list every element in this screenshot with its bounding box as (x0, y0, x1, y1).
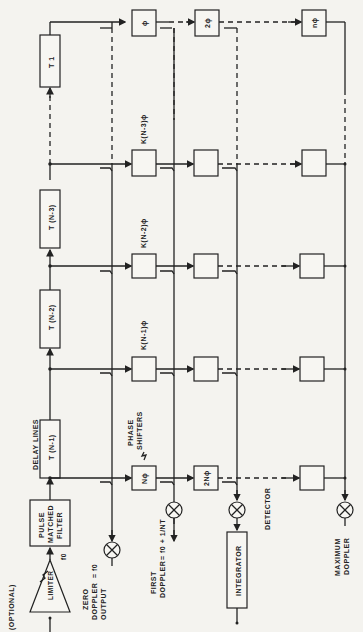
phase-shifters-label: PHASE SHIFTERS (127, 411, 146, 460)
first-doppler-output-label: FIRST DOPPLER = f0 + 1/NT (150, 519, 166, 598)
delay-line-t-n-3: T (N-3) (40, 190, 60, 248)
svg-text:DOPPLER: DOPPLER (343, 538, 350, 575)
phase-label-k-n-2: K(N-2)ϕ (140, 218, 148, 248)
svg-text:PULSE: PULSE (38, 512, 45, 538)
tap-row-1: K(N-1)ϕ (50, 320, 345, 381)
delay-lines-label: DELAY LINES (32, 419, 39, 470)
zero-doppler-output-label: ZERO DOPPLER OUTPUT = f0 (82, 564, 107, 620)
limiter-freq-label: f0 (60, 553, 67, 560)
phase-box-max (300, 466, 324, 490)
detector-label: DETECTOR (264, 488, 271, 530)
svg-text:nϕ: nϕ (311, 17, 319, 28)
svg-text:= f0 + 1/NT: = f0 + 1/NT (159, 519, 166, 560)
tap-row-2: K(N-2)ϕ (50, 218, 345, 278)
svg-text:MATCHED: MATCHED (47, 505, 54, 543)
svg-text:2Nϕ: 2Nϕ (203, 470, 211, 486)
doppler-filter-bank-diagram: LIMITER f0 (OPTIONAL) PULSE MATCHED FILT… (0, 0, 363, 632)
svg-text:DOPPLER: DOPPLER (91, 583, 98, 620)
tap-row-3: K(N-3)ϕ (50, 114, 345, 176)
svg-text:T (N-2): T (N-2) (48, 304, 56, 330)
detector-first-doppler-icon (166, 502, 182, 524)
svg-text:DOPPLER: DOPPLER (159, 561, 166, 598)
delay-line-trunk (50, 22, 125, 500)
svg-text:= f0: = f0 (91, 564, 98, 578)
svg-text:SHIFTERS: SHIFTERS (136, 411, 143, 450)
svg-text:T (N-3): T (N-3) (48, 204, 56, 230)
detector-zero-doppler-icon (104, 542, 120, 566)
detector-icon (229, 502, 245, 530)
pulse-matched-filter: PULSE MATCHED FILTER (30, 500, 70, 546)
integrator: INTEGRATOR (227, 532, 247, 625)
limiter-label: LIMITER (47, 571, 54, 601)
delay-line-t-n-1: T (N-1) (40, 420, 60, 478)
svg-text:INTEGRATOR: INTEGRATOR (235, 545, 242, 596)
svg-text:T (N-1): T (N-1) (48, 434, 56, 460)
tap-row-0: Nϕ 2Nϕ (50, 466, 345, 490)
svg-text:ϕ: ϕ (141, 20, 149, 26)
maximum-doppler-output-label: MAXIMUM DOPPLER (334, 538, 350, 576)
delay-line-t-1: T 1 (40, 35, 60, 87)
svg-text:Nϕ: Nϕ (141, 473, 149, 484)
limiter: LIMITER f0 (OPTIONAL) (8, 548, 70, 632)
bus-zero-doppler (100, 22, 112, 541)
tap-row-last: ϕ 2ϕ nϕ (132, 10, 345, 36)
svg-text:OUTPUT: OUTPUT (100, 588, 107, 620)
svg-text:FIRST: FIRST (150, 571, 157, 594)
bus-maximum-doppler (344, 22, 347, 500)
svg-text:FILTER: FILTER (56, 512, 63, 539)
delay-line-t-n-2: T (N-2) (40, 290, 60, 348)
phase-label-k-n-1: K(N-1)ϕ (140, 320, 148, 350)
detector-maximum-doppler-icon (337, 502, 353, 526)
optional-label: (OPTIONAL) (8, 584, 16, 630)
phase-label-k-n-3: K(N-3)ϕ (140, 114, 148, 144)
svg-text:2ϕ: 2ϕ (204, 18, 212, 28)
svg-text:MAXIMUM: MAXIMUM (334, 538, 341, 576)
bus-second (222, 28, 237, 500)
svg-text:ZERO: ZERO (82, 589, 89, 611)
bus-first-doppler (160, 28, 174, 541)
svg-text:PHASE: PHASE (127, 419, 134, 446)
svg-text:T 1: T 1 (48, 56, 55, 68)
